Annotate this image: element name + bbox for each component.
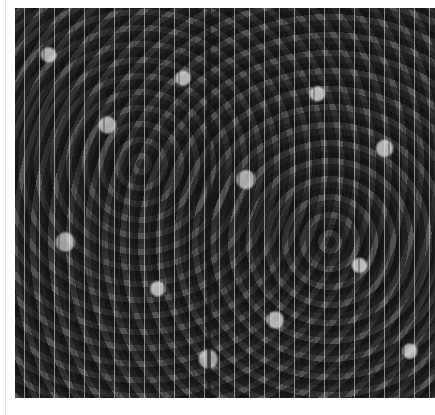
left-border-line	[5, 0, 6, 415]
center-dark-band	[207, 8, 211, 398]
texture-image	[15, 8, 435, 398]
